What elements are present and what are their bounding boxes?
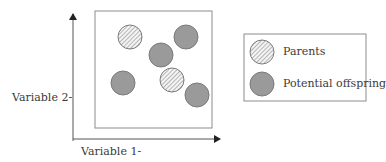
parent-point — [118, 25, 142, 49]
parent-point — [160, 68, 184, 92]
legend-label-offspring: Potential offspring — [283, 77, 386, 90]
offspring-point — [185, 83, 209, 107]
legend-label-parents: Parents — [283, 45, 325, 58]
x-axis-label: Variable 1- — [81, 145, 141, 158]
offspring-point — [149, 43, 173, 67]
legend-offspring-icon — [250, 72, 274, 96]
y-axis-label: Variable 2- — [12, 91, 72, 104]
legend-parents-icon — [250, 40, 274, 64]
offspring-point — [111, 71, 135, 95]
offspring-point — [174, 25, 198, 49]
